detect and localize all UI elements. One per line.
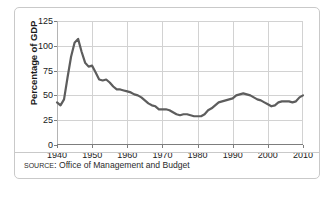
source-note: SOURCE: Office of Management and Budget	[24, 159, 190, 170]
y-axis-title: Percentage of GDP	[27, 13, 41, 113]
y-tick-label-0: 0	[48, 140, 53, 150]
source-label: SOURCE:	[24, 159, 57, 170]
y-tick-label-75: 75	[43, 66, 53, 76]
x-tick-mark-1980	[198, 145, 199, 148]
y-tick-label-50: 50	[43, 90, 53, 100]
x-tick-mark-2000	[268, 145, 269, 148]
source-divider	[15, 152, 319, 153]
plot-area: 0255075100125 19401950196019701980199020…	[57, 21, 303, 145]
x-tick-mark-2010	[303, 145, 304, 148]
x-tick-mark-1990	[233, 145, 234, 148]
x-tick-mark-1960	[127, 145, 128, 148]
y-tick-label-100: 100	[38, 41, 53, 51]
x-tick-mark-1950	[92, 145, 93, 148]
y-tick-label-25: 25	[43, 115, 53, 125]
x-tick-mark-1940	[57, 145, 58, 148]
debt-line-series	[57, 21, 303, 145]
chart-region: Percentage of GDP 0255075100125 19401950…	[15, 8, 321, 152]
x-tick-mark-1970	[162, 145, 163, 148]
y-tick-label-125: 125	[38, 16, 53, 26]
source-text: Office of Management and Budget	[59, 160, 190, 170]
figure-card: Percentage of GDP 0255075100125 19401950…	[14, 7, 320, 179]
